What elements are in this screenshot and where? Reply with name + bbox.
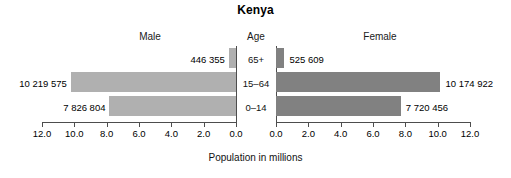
tick-female-10.0 xyxy=(438,123,439,127)
tick-male-8.0 xyxy=(107,123,108,127)
tick-label-female-8.0: 8.0 xyxy=(388,128,422,139)
tick-male-0.0 xyxy=(236,123,237,127)
bar-female-15-64 xyxy=(276,72,440,92)
chart-title: Kenya xyxy=(0,3,511,17)
x-axis-caption: Population in millions xyxy=(0,152,511,163)
female-column-header: Female xyxy=(330,31,430,42)
tick-male-12.0 xyxy=(42,123,43,127)
tick-label-female-10.0: 10.0 xyxy=(421,128,455,139)
tick-male-2.0 xyxy=(204,123,205,127)
tick-label-male-4.0: 4.0 xyxy=(154,128,188,139)
tick-label-female-4.0: 4.0 xyxy=(324,128,358,139)
bar-female-65plus xyxy=(276,48,284,68)
tick-female-0.0 xyxy=(276,123,277,127)
tick-label-female-6.0: 6.0 xyxy=(356,128,390,139)
tick-male-10.0 xyxy=(74,123,75,127)
value-label-male-0-14: 7 826 804 xyxy=(63,102,105,113)
male-column-header: Male xyxy=(100,31,200,42)
value-label-male-15-64: 10 219 575 xyxy=(19,78,67,89)
value-label-male-65plus: 446 355 xyxy=(190,54,224,65)
tick-label-male-6.0: 6.0 xyxy=(122,128,156,139)
tick-label-female-12.0: 12.0 xyxy=(453,128,487,139)
age-label-15-64: 15–64 xyxy=(236,78,276,89)
tick-label-male-12.0: 12.0 xyxy=(25,128,59,139)
tick-label-female-0.0: 0.0 xyxy=(259,128,293,139)
tick-male-4.0 xyxy=(171,123,172,127)
bar-male-65plus xyxy=(229,48,236,68)
age-column-header: Age xyxy=(236,31,276,42)
value-label-female-0-14: 7 720 456 xyxy=(406,102,448,113)
age-label-0-14: 0–14 xyxy=(236,102,276,113)
tick-female-2.0 xyxy=(308,123,309,127)
tick-male-6.0 xyxy=(139,123,140,127)
value-label-female-65plus: 525 609 xyxy=(289,54,323,65)
tick-female-8.0 xyxy=(405,123,406,127)
tick-label-male-2.0: 2.0 xyxy=(187,128,221,139)
bar-male-15-64 xyxy=(71,72,236,92)
tick-female-12.0 xyxy=(470,123,471,127)
age-label-65plus: 65+ xyxy=(236,54,276,65)
tick-label-male-10.0: 10.0 xyxy=(57,128,91,139)
tick-label-male-8.0: 8.0 xyxy=(90,128,124,139)
population-pyramid-chart: Kenya Male Age Female 65+ 15–64 0–14 446… xyxy=(0,0,511,178)
bar-male-0-14 xyxy=(109,96,236,116)
tick-female-4.0 xyxy=(341,123,342,127)
tick-label-male-0.0: 0.0 xyxy=(219,128,253,139)
value-label-female-15-64: 10 174 922 xyxy=(445,78,493,89)
tick-female-6.0 xyxy=(373,123,374,127)
bar-female-0-14 xyxy=(276,96,401,116)
tick-label-female-2.0: 2.0 xyxy=(291,128,325,139)
